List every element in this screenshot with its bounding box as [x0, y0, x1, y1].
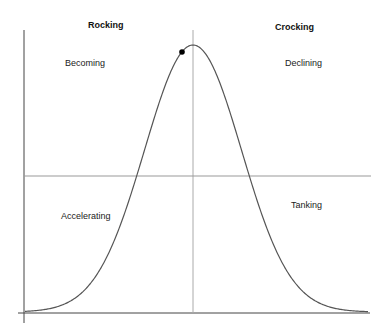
quadrant-tanking: Tanking — [291, 200, 322, 210]
quadrant-declining: Declining — [285, 58, 322, 68]
bell-curve — [25, 45, 368, 312]
header-rocking: Rocking — [88, 20, 124, 30]
quadrant-becoming: Becoming — [65, 58, 105, 68]
quadrant-accelerating: Accelerating — [61, 211, 111, 221]
header-crocking: Crocking — [275, 22, 314, 32]
bell-curve-diagram — [0, 0, 390, 336]
marker-dot — [179, 49, 185, 55]
